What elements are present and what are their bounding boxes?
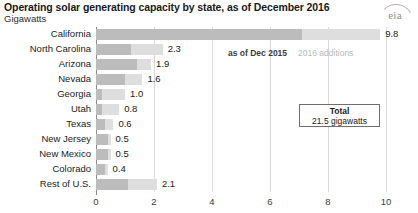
category-label: North Carolina: [30, 43, 91, 54]
x-tick-label: 4: [209, 196, 214, 207]
x-tick-label: 8: [325, 196, 330, 207]
x-tick-label: 6: [267, 196, 272, 207]
category-label: Utah: [71, 103, 91, 114]
bar-value-label: 1.6: [147, 73, 160, 84]
bar-row: California9.8: [96, 27, 386, 42]
bar-segment-base: [96, 44, 131, 55]
bar-value-label: 2.3: [168, 43, 181, 54]
bar-row: Colorado0.4: [96, 162, 386, 177]
category-label: Georgia: [57, 88, 91, 99]
chart-subtitle: Gigawatts: [4, 13, 46, 24]
bar: [96, 134, 111, 145]
legend-item-additions: 2016 additions: [298, 48, 353, 58]
bar-value-label: 1.0: [130, 88, 143, 99]
category-label: Rest of U.S.: [40, 178, 91, 189]
bar: [96, 164, 108, 175]
bar-segment-additions: [302, 29, 380, 40]
bar-value-label: 0.5: [116, 133, 129, 144]
total-callout: Total 21.5 gigawatts: [299, 104, 380, 127]
bar-row: New Jersey0.5: [96, 132, 386, 147]
page-title: Operating solar generating capacity by s…: [4, 1, 330, 13]
bar-row: Nevada1.6: [96, 72, 386, 87]
x-tick-label: 10: [381, 196, 392, 207]
bar-segment-additions: [108, 134, 111, 145]
bar-row: New Mexico0.5: [96, 147, 386, 162]
bar: [96, 89, 125, 100]
bar: [96, 74, 142, 85]
category-label: New Jersey: [41, 133, 91, 144]
eia-logo-text: eia: [376, 9, 414, 21]
bar-segment-additions: [102, 104, 119, 115]
category-label: Texas: [66, 118, 91, 129]
bar-segment-base: [96, 149, 108, 160]
bar-value-label: 2.1: [162, 178, 175, 189]
bar-segment-base: [96, 179, 128, 190]
bar: [96, 119, 113, 130]
bar-segment-additions: [102, 89, 125, 100]
legend-item-base: as of Dec 2015: [228, 48, 287, 58]
eia-logo: eia: [376, 2, 414, 24]
bar-segment-base: [96, 59, 137, 70]
bar-row: Arizona1.9: [96, 57, 386, 72]
bar: [96, 149, 111, 160]
bar-segment-base: [96, 29, 302, 40]
solar-capacity-chart: Operating solar generating capacity by s…: [0, 0, 418, 213]
bar-segment-additions: [105, 119, 114, 130]
bar-value-label: 1.9: [156, 58, 169, 69]
bar-segment-base: [96, 74, 125, 85]
gridline-10: [386, 27, 387, 192]
bar-value-label: 0.5: [116, 148, 129, 159]
category-label: Colorado: [52, 163, 91, 174]
x-tick-label: 0: [93, 196, 98, 207]
bar-value-label: 9.8: [385, 28, 398, 39]
bar-row: Rest of U.S.2.1: [96, 177, 386, 192]
chart-legend: as of Dec 20152016 additions: [228, 48, 353, 58]
bar-segment-additions: [125, 74, 142, 85]
bar: [96, 59, 151, 70]
category-label: Arizona: [59, 58, 91, 69]
total-callout-value: 21.5 gigawatts: [300, 116, 379, 126]
bar-value-label: 0.8: [124, 103, 137, 114]
category-label: New Mexico: [39, 148, 91, 159]
bar-segment-additions: [108, 149, 111, 160]
bar-segment-additions: [131, 44, 163, 55]
x-tick-label: 2: [151, 196, 156, 207]
category-label: California: [51, 28, 91, 39]
bar-segment-additions: [105, 164, 108, 175]
bar-segment-base: [96, 119, 105, 130]
bar-value-label: 0.4: [113, 163, 126, 174]
bar: [96, 104, 119, 115]
bar: [96, 29, 380, 40]
bar-segment-base: [96, 134, 108, 145]
bar-segment-additions: [128, 179, 157, 190]
bar-value-label: 0.6: [118, 118, 131, 129]
bar: [96, 179, 157, 190]
bar-segment-additions: [137, 59, 152, 70]
bar: [96, 44, 163, 55]
category-label: Nevada: [58, 73, 91, 84]
total-callout-title: Total: [300, 106, 379, 116]
bar-segment-base: [96, 164, 105, 175]
bar-row: Georgia1.0: [96, 87, 386, 102]
